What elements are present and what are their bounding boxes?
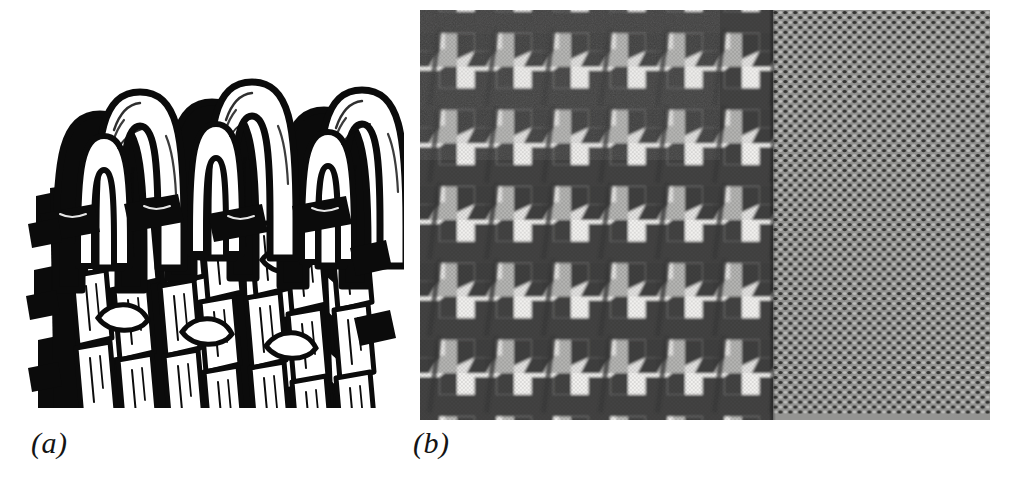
panel-b-caption: (b)	[413, 428, 449, 458]
birdseye-weave-region	[773, 10, 990, 420]
knit-loop-diagram-icon	[14, 18, 404, 408]
figure-root: (a) (b)	[0, 0, 1021, 490]
fabric-seam-edge	[769, 10, 776, 420]
birdseye-weave-pattern-icon	[773, 10, 990, 414]
houndstooth-region	[420, 10, 773, 420]
panel-a-knit-loop-diagram	[14, 18, 404, 408]
fabric-swatch-photo-icon	[420, 10, 990, 420]
panel-a-caption: (a)	[31, 428, 67, 458]
panel-b-fabric-photo	[420, 10, 990, 420]
houndstooth-pattern-icon	[420, 10, 793, 420]
